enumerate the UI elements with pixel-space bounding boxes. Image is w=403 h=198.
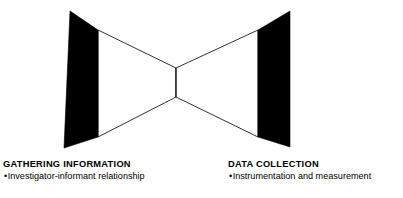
- caption-bullet-right: •Instrumentation and measurement: [228, 170, 371, 182]
- caption-bullet-left: •Investigator-informant relationship: [3, 170, 145, 182]
- left-funnel: [64, 11, 176, 148]
- caption-block-data-collection: DATA COLLECTION •Instrumentation and mea…: [228, 158, 371, 182]
- right-funnel: [176, 11, 290, 147]
- bowtie-funnel-diagram: [0, 0, 403, 160]
- left-funnel-open-taper: [98, 30, 176, 137]
- caption-bullet-text-left: Investigator-informant relationship: [8, 171, 145, 181]
- caption-block-gathering-information: GATHERING INFORMATION •Investigator-info…: [3, 158, 145, 182]
- caption-row: GATHERING INFORMATION •Investigator-info…: [0, 158, 403, 198]
- figure-container: GATHERING INFORMATION •Investigator-info…: [0, 0, 403, 198]
- caption-bullet-text-right: Instrumentation and measurement: [233, 171, 372, 181]
- right-funnel-open-taper: [176, 30, 258, 137]
- caption-heading-right: DATA COLLECTION: [228, 158, 371, 170]
- caption-heading-left: GATHERING INFORMATION: [3, 158, 145, 170]
- left-funnel-solid-bar: [64, 11, 98, 148]
- right-funnel-solid-bar: [258, 11, 290, 147]
